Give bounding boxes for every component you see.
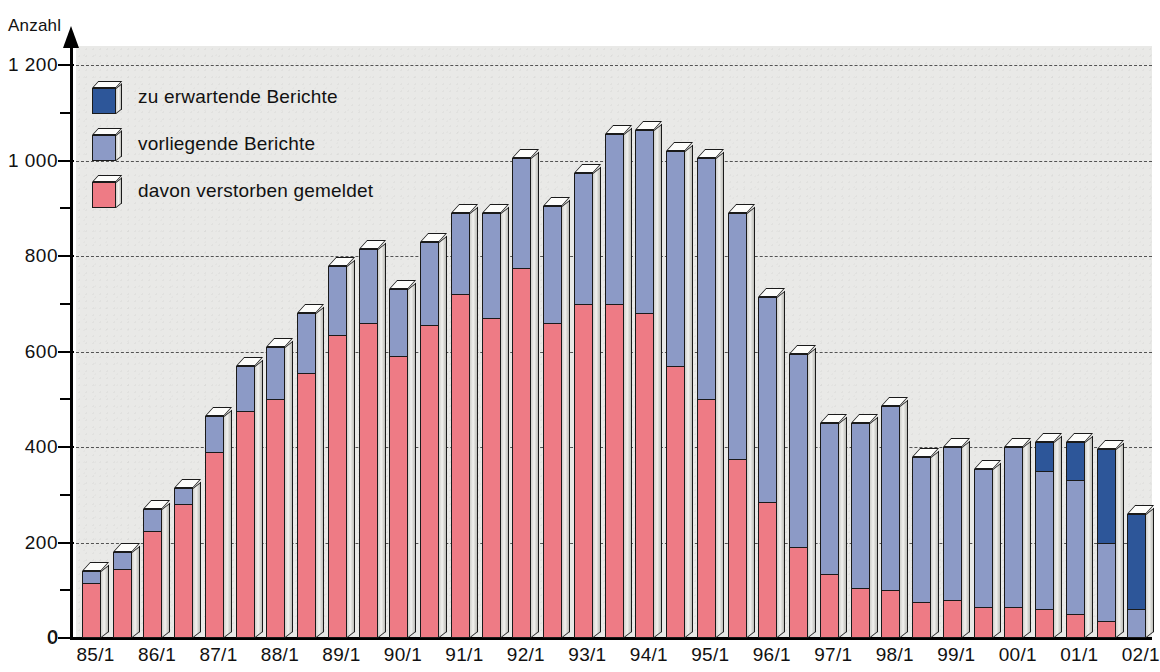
bar-side-face	[1116, 443, 1124, 638]
segment-davon-verstorben	[698, 400, 715, 638]
bar-90-2	[420, 242, 439, 638]
bar-stack	[605, 134, 624, 638]
segment-davon-verstorben	[852, 589, 869, 638]
bar-99-1	[943, 447, 962, 638]
segment-vorliegende-berichte	[821, 424, 838, 574]
segment-davon-verstorben	[298, 374, 315, 638]
segment-davon-verstorben	[759, 503, 776, 638]
bar-side-face	[716, 152, 724, 638]
bar-98-1	[881, 406, 900, 638]
bar-side-face	[1085, 436, 1093, 638]
legend-swatch-icon	[92, 84, 120, 114]
bar-90-1	[389, 289, 408, 638]
legend-item-1: vorliegende Berichte	[92, 125, 422, 172]
y-axis-tick-minor	[60, 112, 72, 114]
bar-side-face	[285, 341, 293, 638]
legend-swatch-side	[116, 83, 122, 114]
segment-davon-verstorben	[1036, 610, 1053, 638]
y-axis-label: 800	[25, 245, 58, 267]
segment-davon-verstorben	[513, 269, 530, 638]
bar-92-1	[512, 158, 531, 638]
segment-vorliegende-berichte	[206, 417, 223, 453]
bar-97-1	[820, 423, 839, 638]
legend-swatch-side	[116, 130, 122, 161]
bar-side-face	[501, 207, 509, 638]
bar-stack	[482, 213, 501, 638]
legend-swatch-icon	[92, 178, 120, 208]
bar-96-1	[758, 297, 777, 638]
segment-davon-verstorben	[329, 336, 346, 638]
bar-88-2	[297, 313, 316, 638]
segment-davon-verstorben	[175, 505, 192, 638]
segment-davon-verstorben	[913, 603, 930, 638]
bar-stack	[943, 447, 962, 638]
y-axis-label: 1 200	[8, 54, 58, 76]
bar-94-1	[635, 130, 654, 638]
bar-side-face	[1023, 441, 1031, 638]
segment-davon-verstorben	[206, 453, 223, 638]
bar-side-face	[747, 207, 755, 638]
bar-stack	[1004, 447, 1023, 638]
bar-stack	[1035, 442, 1054, 638]
x-axis-label-86-1: 86/1	[138, 644, 176, 666]
bar-stack	[851, 423, 870, 638]
bar-94-2	[666, 151, 685, 638]
y-axis-tick	[58, 64, 74, 66]
bar-93-2	[605, 134, 624, 638]
segment-vorliegende-berichte	[144, 510, 161, 531]
bar-stack	[758, 297, 777, 638]
segment-vorliegende-berichte	[759, 298, 776, 503]
segment-vorliegende-berichte	[1098, 544, 1115, 623]
bar-88-1	[266, 347, 285, 638]
bar-stack	[820, 423, 839, 638]
segment-vorliegende-berichte	[452, 214, 469, 295]
segment-vorliegende-berichte	[575, 174, 592, 305]
segment-vorliegende-berichte	[1128, 610, 1145, 638]
x-axis-label-90-1: 90/1	[384, 644, 422, 666]
y-axis-tick	[58, 446, 74, 448]
legend-swatch-face	[92, 88, 116, 114]
x-axis-labels: 85/186/187/188/189/190/191/192/193/194/1…	[0, 644, 1152, 672]
y-axis-tick	[58, 542, 74, 544]
bar-stack	[236, 366, 255, 638]
segment-davon-verstorben	[237, 412, 254, 638]
y-axis-label: 400	[25, 436, 58, 458]
bar-91-1	[451, 213, 470, 638]
y-axis-tick-minor	[60, 207, 72, 209]
bar-96-2	[789, 354, 808, 638]
bar-stack	[697, 158, 716, 638]
segment-davon-verstorben	[421, 326, 438, 638]
segment-davon-verstorben	[636, 314, 653, 638]
bar-side-face	[378, 243, 386, 638]
bar-stack	[728, 213, 747, 638]
y-axis-label: 600	[25, 341, 58, 363]
legend-swatch-face	[92, 135, 116, 161]
segment-davon-verstorben	[729, 460, 746, 638]
y-axis-tick	[58, 637, 74, 639]
bar-98-2	[912, 457, 931, 638]
bar-stack	[359, 249, 378, 638]
segment-davon-verstorben	[606, 305, 623, 638]
bar-stack	[174, 488, 193, 638]
segment-davon-verstorben	[544, 324, 561, 638]
legend-label: davon verstorben gemeldet	[138, 180, 373, 202]
bar-stack	[143, 509, 162, 638]
y-axis-title: Anzahl	[8, 16, 61, 36]
x-axis-label-87-1: 87/1	[199, 644, 237, 666]
segment-davon-verstorben	[83, 584, 100, 638]
bar-stack	[1097, 449, 1116, 638]
bar-95-1	[697, 158, 716, 638]
segment-vorliegende-berichte	[852, 424, 869, 589]
bar-side-face	[408, 283, 416, 638]
segment-davon-verstorben	[360, 324, 377, 638]
bar-93-1	[574, 173, 593, 638]
segment-vorliegende-berichte	[975, 470, 992, 608]
bar-89-1	[328, 266, 347, 638]
bar-side-face	[531, 152, 539, 638]
x-axis-label-96-1: 96/1	[753, 644, 791, 666]
chart-legend: zu erwartende Berichtevorliegende Berich…	[92, 78, 422, 219]
bar-85-1	[82, 571, 101, 638]
segment-davon-verstorben	[667, 367, 684, 638]
segment-davon-verstorben	[1098, 622, 1115, 638]
segment-davon-verstorben	[790, 548, 807, 638]
